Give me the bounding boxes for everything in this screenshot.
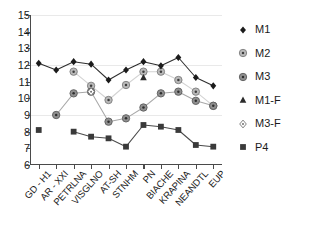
data-point-filled-square	[36, 127, 42, 133]
chart-legend: M1M2M3M1-FM3-FP4	[236, 18, 310, 159]
legend-item-m3[interactable]: M3	[236, 65, 310, 89]
x-axis-labels: GD - H1AR - XXIPETRLNAVISGLNOAT-SHSTNHMP…	[30, 168, 222, 226]
series-line-P4	[74, 125, 214, 147]
series-layer	[30, 15, 222, 165]
data-point-open-diamond	[240, 120, 247, 128]
legend-label: M1-F	[255, 95, 281, 106]
data-point-circle-dot-light	[239, 50, 246, 57]
legend-marker-circle-dot-light-icon	[236, 46, 250, 60]
legend-label: M3-F	[255, 118, 281, 129]
data-point-circle-dot-gray	[70, 90, 77, 97]
y-axis: 6789101112131415	[0, 15, 30, 165]
data-point-filled-square	[158, 124, 164, 130]
legend-label: M1	[255, 24, 270, 35]
data-point-filled-triangle	[240, 97, 247, 103]
data-point-circle-dot-light	[192, 88, 199, 95]
legend-item-m3-f[interactable]: M3-F	[236, 112, 310, 136]
data-point-filled-diamond	[53, 66, 59, 73]
data-point-filled-square	[88, 134, 94, 140]
data-point-filled-diamond	[240, 26, 246, 33]
data-point-filled-diamond	[71, 58, 77, 65]
data-point-circle-dot-gray	[239, 73, 246, 80]
legend-item-m2[interactable]: M2	[236, 42, 310, 66]
data-point-circle-dot-gray	[105, 118, 112, 125]
data-point-circle-dot-gray	[157, 90, 164, 97]
data-point-filled-square	[240, 144, 246, 150]
data-point-filled-square	[71, 129, 77, 135]
data-point-circle-dot-light	[122, 81, 129, 88]
data-point-circle-dot-light	[105, 96, 112, 103]
data-point-filled-diamond	[210, 82, 216, 89]
legend-item-p4[interactable]: P4	[236, 136, 310, 160]
data-point-circle-dot-gray	[175, 88, 182, 95]
data-point-circle-dot-gray	[140, 104, 147, 111]
data-point-filled-square	[123, 144, 129, 150]
legend-marker-filled-square-icon	[236, 140, 250, 154]
legend-marker-circle-dot-gray-icon	[236, 70, 250, 84]
legend-label: M2	[255, 48, 270, 59]
legend-item-m1[interactable]: M1	[236, 18, 310, 42]
data-point-filled-square	[210, 144, 216, 150]
x-tick-label: EUP	[206, 168, 227, 190]
data-point-circle-dot-light	[70, 68, 77, 75]
data-point-filled-diamond	[123, 66, 129, 73]
data-point-filled-square	[193, 142, 199, 148]
data-point-filled-diamond	[36, 60, 42, 67]
data-point-filled-square	[141, 122, 147, 128]
chart-root: 6789101112131415 GD - H1AR - XXIPETRLNAV…	[0, 0, 313, 229]
series-line-M3	[56, 92, 213, 122]
data-point-circle-dot-gray	[52, 111, 59, 118]
plot-area	[30, 15, 222, 165]
data-point-circle-dot-gray	[192, 97, 199, 104]
legend-label: P4	[255, 142, 268, 153]
data-point-circle-dot-gray	[122, 115, 129, 122]
data-point-filled-square	[106, 135, 112, 141]
legend-label: M3	[255, 71, 270, 82]
data-point-circle-dot-gray	[210, 102, 217, 109]
legend-marker-filled-diamond-icon	[236, 23, 250, 37]
data-point-circle-dot-light	[175, 76, 182, 83]
legend-item-m1-f[interactable]: M1-F	[236, 89, 310, 113]
data-point-filled-square	[175, 127, 181, 133]
legend-marker-open-diamond-icon	[236, 117, 250, 131]
legend-marker-filled-triangle-icon	[236, 93, 250, 107]
data-point-filled-diamond	[141, 58, 147, 65]
